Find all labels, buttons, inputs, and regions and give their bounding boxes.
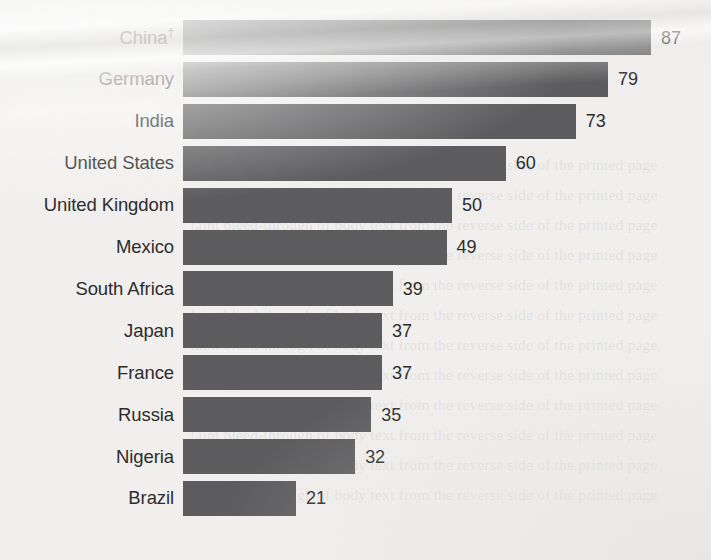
bar: [183, 355, 382, 390]
bar: [183, 146, 506, 181]
bar: [183, 230, 447, 265]
bar-value-label: 32: [365, 448, 385, 466]
bar: [183, 481, 296, 516]
bar: [183, 271, 393, 306]
bar-chart-figure: faint bleed-through of body text from th…: [0, 0, 711, 560]
bar: [183, 439, 355, 474]
bar-value-label: 21: [306, 489, 326, 507]
bar-value-label: 50: [462, 196, 482, 214]
bar-value-label: 39: [403, 280, 423, 298]
bar-chart-plot-area: China†87Germany79India73United States60U…: [0, 0, 711, 560]
bar-value-label: 37: [392, 364, 412, 382]
category-label: United States: [0, 154, 174, 173]
category-label: United Kingdom: [0, 196, 174, 215]
category-label: South Africa: [0, 280, 174, 299]
category-label: Mexico: [0, 238, 174, 257]
bar: [183, 397, 371, 432]
category-label: India: [0, 112, 174, 131]
bar-value-label: 35: [381, 406, 401, 424]
category-label: Germany: [0, 70, 174, 89]
category-label: China†: [0, 29, 174, 48]
category-label: Russia: [0, 406, 174, 425]
bar: [183, 62, 608, 97]
bar-value-label: 49: [457, 238, 477, 256]
bar-value-label: 79: [618, 70, 638, 88]
bar-value-label: 37: [392, 322, 412, 340]
category-label: France: [0, 364, 174, 383]
category-label: Japan: [0, 322, 174, 341]
bar: [183, 104, 576, 139]
bar-value-label: 60: [516, 154, 536, 172]
category-label: Brazil: [0, 489, 174, 508]
bar: [183, 20, 651, 55]
bar-value-label: 73: [586, 112, 606, 130]
footnote-marker: †: [167, 25, 174, 39]
bar-value-label: 87: [661, 29, 681, 47]
bar: [183, 313, 382, 348]
category-label: Nigeria: [0, 448, 174, 467]
bar: [183, 188, 452, 223]
